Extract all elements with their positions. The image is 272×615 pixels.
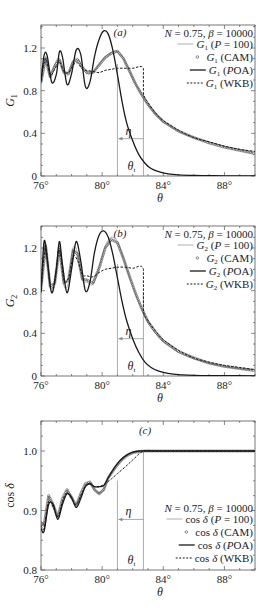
panel-tag: (a)	[114, 26, 127, 39]
x-tick-label: 84°	[156, 379, 171, 391]
theta-t-label: θt	[127, 359, 135, 374]
eta-label: η	[125, 324, 131, 338]
chart-panel-b: 76°80°84°88°00.40.81.2θG2(b)ηθtN = 0.75,…	[3, 226, 255, 405]
chart-panel-c: 76°80°84°88°0.80.91.0θcos δ(c)ηθtN = 0.7…	[3, 421, 255, 599]
y-tick-label: 0.8	[23, 85, 37, 97]
legend-entry: G2 (WKB)	[206, 278, 254, 292]
y-tick-label: 0.4	[23, 327, 37, 339]
legend-entry: cos δ (POA)	[198, 539, 254, 552]
y-axis-label: G2	[3, 295, 19, 308]
eta-label: η	[125, 124, 131, 138]
chart-panel-a: 76°80°84°88°00.40.81.2θG1(a)ηθtN = 0.75,…	[3, 25, 255, 205]
legend-entry: G2 (P = 100)	[197, 239, 254, 253]
panel-tag: (c)	[139, 424, 152, 437]
y-tick-label: 0.8	[23, 564, 37, 576]
x-axis-label: θ	[157, 585, 163, 599]
legend-entry: G1 (POA)	[209, 64, 253, 78]
legend-marker-icon	[196, 56, 199, 59]
eta-label: η	[125, 504, 131, 518]
theta-t-label: θt	[127, 159, 135, 174]
theta-t-label: θt	[127, 553, 135, 568]
x-axis-label: θ	[157, 191, 163, 205]
y-tick-label: 0.8	[23, 285, 37, 297]
figure-canvas: 76°80°84°88°00.40.81.2θG1(a)ηθtN = 0.75,…	[0, 0, 272, 615]
legend-marker-icon	[185, 531, 188, 534]
legend-entry: cos δ (P = 100)	[185, 513, 253, 526]
x-tick-label: 88°	[217, 179, 232, 191]
x-tick-label: 88°	[217, 573, 232, 585]
x-tick-label: 80°	[94, 573, 109, 585]
y-tick-label: 1.0	[23, 445, 37, 457]
legend-entry: cos δ (CAM)	[195, 526, 253, 539]
x-tick-label: 84°	[156, 179, 171, 191]
x-tick-label: 80°	[94, 379, 109, 391]
legend-entry: cos δ (WKB)	[195, 552, 254, 565]
legend-entry: G1 (P = 100)	[197, 38, 254, 52]
legend-entry: G1 (CAM)	[206, 51, 253, 65]
x-axis-label: θ	[157, 391, 163, 405]
y-tick-label: 0	[32, 370, 38, 382]
y-axis-label: G1	[3, 94, 19, 107]
y-tick-label: 1.2	[23, 42, 37, 54]
x-tick-label: 80°	[94, 179, 109, 191]
x-tick-label: 88°	[217, 379, 232, 391]
legend-entry: G2 (POA)	[209, 265, 253, 279]
y-axis-label: cos δ	[3, 483, 17, 508]
y-tick-label: 1.2	[23, 242, 37, 254]
legend: N = 0.75, β = 10000G1 (P = 100)G1 (CAM)G…	[163, 27, 253, 91]
legend-entry: G1 (WKB)	[206, 77, 254, 91]
legend: N = 0.75, β = 10000G2 (P = 100)G2 (CAM)G…	[163, 228, 253, 292]
y-tick-label: 0	[32, 170, 38, 182]
legend-entry: G2 (CAM)	[206, 252, 253, 266]
legend-marker-icon	[196, 257, 199, 260]
legend: N = 0.75, β = 10000cos δ (P = 100)cos δ …	[163, 502, 253, 565]
x-tick-label: 84°	[156, 573, 171, 585]
panel-tag: (b)	[114, 227, 127, 240]
y-tick-label: 0.9	[23, 505, 37, 517]
y-tick-label: 0.4	[23, 127, 37, 139]
